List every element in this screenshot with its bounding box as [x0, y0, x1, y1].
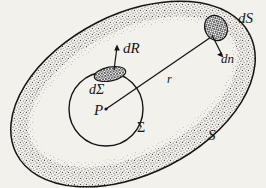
label-radius: r	[167, 73, 172, 85]
label-inner-surface: Σ	[137, 121, 145, 135]
solid-angle-diagram	[0, 0, 266, 188]
label-d-sigma: dΣ	[89, 83, 104, 97]
label-center-point: P	[94, 103, 103, 118]
label-outer-surface: S	[208, 128, 216, 143]
label-d-n: dn	[221, 52, 234, 65]
figure-canvas: dS dn dR dΣ P Σ S r	[0, 0, 266, 188]
center-point-dot	[104, 107, 107, 110]
label-d-s: dS	[238, 11, 253, 26]
label-d-r: dR	[123, 41, 140, 56]
